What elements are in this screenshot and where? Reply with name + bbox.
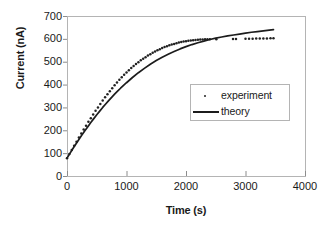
chart-figure: Current (nA) Time (s) 010020030040050060… bbox=[0, 0, 326, 230]
legend: experiment theory bbox=[190, 84, 290, 121]
x-tick-label: 0 bbox=[41, 181, 93, 192]
x-axis-title: Time (s) bbox=[67, 204, 305, 216]
x-tick-label: 2000 bbox=[160, 181, 212, 192]
y-tick-label: 300 bbox=[26, 102, 62, 113]
y-tick-label: 600 bbox=[26, 33, 62, 44]
y-tick-label: 200 bbox=[26, 125, 62, 136]
y-tick-label: 500 bbox=[26, 56, 62, 67]
x-tick-label: 1000 bbox=[101, 181, 153, 192]
legend-label-theory: theory bbox=[221, 106, 250, 117]
legend-label-experiment: experiment bbox=[221, 90, 272, 101]
y-tick-label: 100 bbox=[26, 148, 62, 159]
y-tick-label: 700 bbox=[26, 11, 62, 22]
legend-marker-line-icon bbox=[191, 105, 221, 119]
x-tick-label: 4000 bbox=[279, 181, 326, 192]
y-axis-title: Current (nA) bbox=[14, 0, 26, 118]
x-tick-label: 3000 bbox=[220, 181, 272, 192]
y-tick-label: 0 bbox=[26, 171, 62, 182]
y-tick-label: 400 bbox=[26, 79, 62, 90]
legend-marker-dot-icon bbox=[191, 89, 221, 103]
legend-item-experiment: experiment bbox=[191, 87, 289, 104]
legend-item-theory: theory bbox=[191, 103, 289, 120]
